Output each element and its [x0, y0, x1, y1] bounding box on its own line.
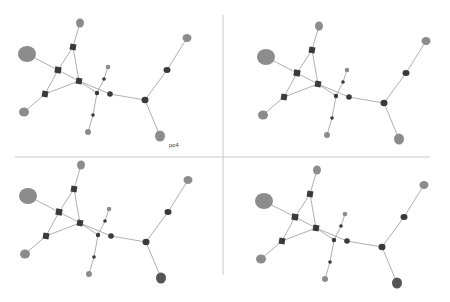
- graph-edge: [45, 70, 58, 94]
- graph-node-left-sq: [54, 66, 61, 73]
- graph-node-top-leaf: [77, 161, 85, 170]
- graph-edge: [384, 103, 399, 139]
- graph-edge: [145, 70, 167, 100]
- graph-edge: [59, 212, 80, 223]
- graph-edge: [404, 185, 424, 217]
- graph-edge: [347, 241, 382, 247]
- graph-node-mid-node: [334, 94, 338, 98]
- graph-node-small-dot: [341, 80, 345, 84]
- graph-node-low-dot: [330, 116, 334, 120]
- graph-node-center-sq: [313, 225, 320, 232]
- graph-node-center-sq: [315, 81, 322, 88]
- graph-edge: [145, 100, 160, 136]
- graph-node-botright-leaf: [155, 131, 165, 142]
- graph-node-bottom-leaf: [322, 276, 328, 282]
- graph-node-lowleft-sq: [42, 91, 49, 98]
- graph-edge: [168, 180, 188, 212]
- graph-node-big-left: [18, 46, 36, 62]
- graph-edge: [46, 212, 59, 236]
- panel-bottom-left: [19, 161, 193, 284]
- graph-node-left-sq: [55, 208, 62, 215]
- graph-node-top-sq: [71, 186, 78, 193]
- graph-edge: [330, 240, 334, 262]
- graph-node-mid-node: [96, 233, 100, 237]
- graph-node-top-leaf: [313, 166, 321, 175]
- graph-node-mid-circle: [107, 91, 113, 97]
- graph-edge: [167, 38, 187, 70]
- graph-edge: [111, 236, 146, 242]
- graph-node-small-dot: [339, 224, 343, 228]
- graph-node-topright-leaf: [420, 181, 429, 189]
- graph-node-big-left: [19, 188, 37, 204]
- graph-edge: [349, 97, 384, 103]
- graph-node-low-dot: [92, 255, 96, 259]
- panel-top-right: [257, 22, 431, 145]
- graph-node-top-leaf: [76, 19, 84, 28]
- graph-edge: [310, 194, 316, 228]
- graph-edge: [146, 212, 168, 242]
- graph-edge: [284, 73, 297, 97]
- graph-edge: [282, 217, 295, 241]
- graph-node-mid-circle: [346, 94, 352, 100]
- graph-node-lowleft-sq: [281, 94, 288, 101]
- graph-node-top-sq: [70, 44, 77, 51]
- graph-node-top-sq: [307, 191, 314, 198]
- network-diagram-grid: [0, 0, 450, 302]
- graph-node-botright-leaf: [394, 134, 404, 145]
- graph-node-big-left: [255, 193, 273, 209]
- graph-edge: [384, 73, 406, 103]
- graph-edge: [93, 93, 97, 115]
- graph-edge: [406, 41, 426, 73]
- graph-node-right-sq: [403, 70, 410, 76]
- graph-node-right-hub: [143, 239, 150, 245]
- graph-edge: [318, 84, 349, 97]
- graph-node-top-leaf: [315, 22, 323, 31]
- graph-node-small-top: [345, 68, 350, 73]
- graph-edge: [312, 50, 318, 84]
- graph-edge: [297, 73, 318, 84]
- graph-node-right-sq: [165, 209, 172, 215]
- graph-edge: [382, 247, 397, 283]
- graph-node-lowleft-leaf: [20, 250, 30, 259]
- graph-edge: [46, 223, 80, 236]
- graph-edge: [110, 94, 145, 100]
- graph-edge: [146, 242, 161, 278]
- graph-node-lowleft-leaf: [19, 108, 29, 117]
- panel-top-left: [18, 19, 192, 142]
- graph-node-bottom-leaf: [85, 129, 91, 135]
- graph-node-mid-circle: [108, 233, 114, 239]
- graph-node-left-sq: [293, 69, 300, 76]
- graph-node-topright-leaf: [183, 34, 192, 42]
- graph-label: pc4: [169, 142, 179, 148]
- graph-node-lowleft-leaf: [258, 111, 268, 120]
- graph-node-bottom-leaf: [324, 132, 330, 138]
- graph-edge: [316, 228, 347, 241]
- graph-edge: [58, 70, 79, 81]
- graph-node-lowleft-leaf: [256, 255, 266, 264]
- graph-node-mid-circle: [344, 238, 350, 244]
- graph-node-low-dot: [91, 113, 95, 117]
- graph-node-small-top: [343, 212, 348, 217]
- graph-edge: [297, 50, 312, 73]
- graph-node-right-sq: [164, 67, 171, 73]
- graph-node-right-hub: [379, 244, 386, 250]
- graph-node-bottom-leaf: [86, 271, 92, 277]
- graph-node-top-sq: [309, 47, 316, 54]
- graph-edge: [80, 223, 111, 236]
- panel-bottom-right: [255, 166, 429, 289]
- graph-edge: [284, 84, 318, 97]
- graph-node-right-hub: [142, 97, 149, 103]
- graph-edge: [58, 47, 73, 70]
- graph-edge: [73, 47, 79, 81]
- graph-node-mid-node: [95, 91, 99, 95]
- graph-edge: [282, 228, 316, 241]
- graph-edge: [332, 96, 336, 118]
- graph-node-center-sq: [77, 220, 84, 227]
- graph-node-left-sq: [291, 213, 298, 220]
- graph-node-lowleft-sq: [279, 238, 286, 245]
- graph-edge: [295, 217, 316, 228]
- graph-node-low-dot: [328, 260, 332, 264]
- graph-edge: [74, 189, 80, 223]
- graph-node-right-sq: [401, 214, 408, 220]
- graph-node-small-dot: [102, 77, 106, 81]
